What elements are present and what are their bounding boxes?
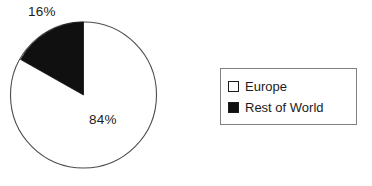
chart-legend: Europe Rest of World [220,68,357,125]
pie-chart-graphic: 16% 84% [0,0,186,186]
legend-item-rest-of-world[interactable]: Rest of World [228,97,356,118]
pie-label-rest-of-world: 16% [28,5,56,19]
legend-item-europe[interactable]: Europe [228,76,356,97]
legend-label-europe: Europe [245,80,287,93]
legend-swatch-europe-icon [228,81,239,92]
pie-chart-figure: 16% 84% Europe Rest of World [0,0,372,186]
pie-svg [0,0,186,186]
legend-swatch-rest-of-world-icon [228,102,239,113]
legend-label-rest-of-world: Rest of World [245,101,324,114]
pie-label-europe: 84% [89,113,117,127]
